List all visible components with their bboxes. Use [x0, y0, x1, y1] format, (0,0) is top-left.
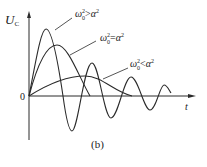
- curve-overdamped: [29, 76, 132, 96]
- origin-label: 0: [20, 91, 25, 102]
- x-axis-arrow-icon: [188, 94, 196, 98]
- label-underdamped: ω02>α2: [75, 8, 99, 21]
- rlc-response-diagram: UC 0 t ω02>α2 ω02=α2 ω02<α2 (b): [0, 0, 207, 167]
- label-overdamped: ω02<α2: [130, 58, 154, 71]
- leader-underdamped: [55, 18, 72, 30]
- x-axis-label: t: [185, 101, 188, 112]
- curve-critical: [29, 45, 90, 96]
- figure-caption: (b): [91, 138, 104, 151]
- y-axis-arrow-icon: [27, 11, 31, 18]
- leader-critical: [70, 41, 96, 55]
- label-critical: ω02=α2: [100, 32, 124, 45]
- y-axis-label: UC: [5, 12, 19, 28]
- leader-overdamped: [103, 68, 128, 79]
